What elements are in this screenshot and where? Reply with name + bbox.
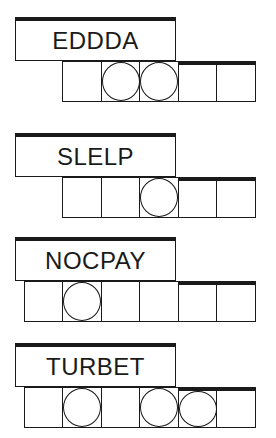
answer-cell-6[interactable] bbox=[216, 281, 256, 322]
circle-marker-icon bbox=[140, 178, 178, 217]
circle-marker-icon bbox=[179, 391, 217, 427]
answer-cell-2[interactable] bbox=[101, 61, 141, 102]
answer-cell-3[interactable] bbox=[101, 387, 141, 428]
answer-cell-1[interactable] bbox=[24, 387, 64, 428]
answer-cell-2[interactable] bbox=[62, 387, 102, 428]
answer-cell-5[interactable] bbox=[178, 281, 218, 322]
answer-cells bbox=[24, 387, 257, 428]
circle-marker-icon bbox=[63, 388, 101, 427]
answer-cells bbox=[62, 177, 256, 218]
answer-cell-5[interactable] bbox=[178, 387, 218, 428]
answer-cells bbox=[24, 281, 257, 322]
circle-marker-icon bbox=[140, 62, 178, 101]
scrambled-word: SLELP bbox=[15, 133, 176, 177]
answer-cell-1[interactable] bbox=[24, 281, 64, 322]
circle-marker-icon bbox=[63, 282, 101, 321]
scrambled-word: EDDDA bbox=[15, 17, 176, 61]
answer-cell-6[interactable] bbox=[216, 387, 256, 428]
answer-cell-1[interactable] bbox=[62, 61, 102, 102]
answer-cell-3[interactable] bbox=[139, 61, 179, 102]
answer-cell-3[interactable] bbox=[101, 281, 141, 322]
puzzle-block: EDDDA bbox=[0, 17, 276, 107]
scrambled-word: NOCPAY bbox=[15, 237, 176, 281]
answer-cells bbox=[62, 61, 256, 102]
answer-cell-4[interactable] bbox=[139, 281, 179, 322]
circle-marker-icon bbox=[102, 62, 140, 101]
answer-cell-5[interactable] bbox=[216, 61, 256, 102]
puzzle-block: TURBET bbox=[0, 343, 276, 433]
puzzle-block: NOCPAY bbox=[0, 237, 276, 327]
answer-cell-3[interactable] bbox=[139, 177, 179, 218]
answer-cell-4[interactable] bbox=[178, 177, 218, 218]
puzzle-block: SLELP bbox=[0, 133, 276, 223]
scrambled-word: TURBET bbox=[15, 343, 176, 387]
answer-cell-4[interactable] bbox=[178, 61, 218, 102]
answer-cell-4[interactable] bbox=[139, 387, 179, 428]
circle-marker-icon bbox=[140, 388, 178, 427]
answer-cell-5[interactable] bbox=[216, 177, 256, 218]
answer-cell-2[interactable] bbox=[101, 177, 141, 218]
answer-cell-1[interactable] bbox=[62, 177, 102, 218]
answer-cell-2[interactable] bbox=[62, 281, 102, 322]
